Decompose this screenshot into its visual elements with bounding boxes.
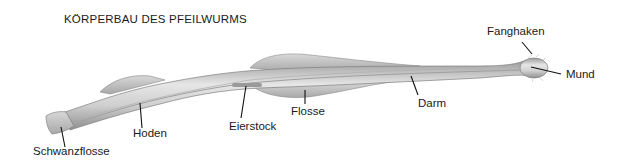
label-mund: Mund [566,68,595,80]
ovary [232,83,262,87]
leader-eierstock [241,86,246,118]
label-darm: Darm [418,97,446,109]
label-schwanzflosse: Schwanzflosse [33,145,110,157]
label-fanghaken: Fanghaken [487,25,545,37]
label-flosse: Flosse [291,105,325,117]
label-eierstock: Eierstock [229,120,276,132]
label-hoden: Hoden [133,127,167,139]
leader-fanghaken [522,42,532,54]
